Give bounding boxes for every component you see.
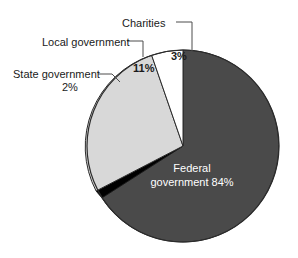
slice-label-charities: Charities [122, 17, 165, 29]
slice-value-state-government: 2% [62, 81, 78, 93]
pie-chart-figure: Charities Local government State governm… [0, 0, 298, 258]
leader-line-charities [176, 22, 192, 51]
slice-label-federal-government-line2: government 84% [134, 175, 250, 189]
slice-label-state-government: State government [13, 68, 100, 80]
slice-value-charities: 3% [171, 50, 187, 62]
slice-value-local-government: 11% [133, 62, 154, 74]
slice-label-federal-government: Federal government 84% [134, 161, 250, 189]
slice-label-federal-government-line1: Federal [134, 161, 250, 175]
slice-label-local-government: Local government [42, 36, 129, 48]
